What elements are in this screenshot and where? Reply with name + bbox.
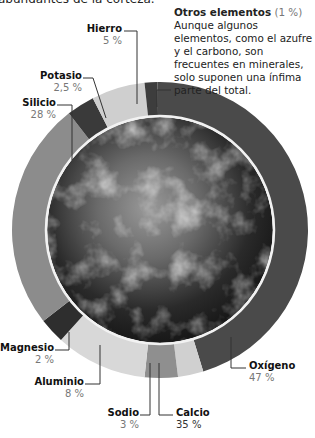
note-pct: (1 %) (274, 6, 302, 18)
label-pct: 2,5 % (53, 82, 82, 93)
label-pct: 3 % (120, 419, 139, 430)
label-sodio: Sodio 3 % (95, 407, 139, 431)
label-oxigeno: Oxígeno 47 % (249, 360, 309, 384)
label-pct: 47 % (249, 372, 274, 383)
note-title: Otros elementos (174, 6, 271, 18)
label-pct: 35 % (176, 419, 201, 430)
label-aluminio: Aluminio 8 % (30, 376, 84, 400)
label-name: Hierro (87, 23, 122, 34)
label-silicio: Silicio 28 % (4, 97, 56, 121)
label-magnesio: Magnesio 2 % (0, 342, 54, 366)
label-name: Sodio (107, 407, 139, 418)
label-name: Oxígeno (249, 360, 295, 371)
label-name: Magnesio (0, 342, 54, 353)
label-pct: 5 % (103, 35, 122, 46)
otros-elementos-note: Otros elementos (1 %) Aunque algunos ele… (174, 6, 314, 97)
label-name: Potasio (40, 70, 82, 81)
note-text: Aunque algunos elementos, como el azufre… (174, 19, 312, 96)
label-potasio: Potasio 2,5 % (30, 70, 82, 94)
label-name: Silicio (22, 97, 56, 108)
label-name: Aluminio (34, 376, 84, 387)
label-pct: 28 % (31, 109, 56, 120)
label-calcio: Calcio 35 % (176, 407, 226, 431)
label-pct: 8 % (65, 388, 84, 399)
label-hierro: Hierro 5 % (80, 23, 122, 47)
label-pct: 2 % (35, 354, 54, 365)
label-name: Calcio (176, 407, 210, 418)
